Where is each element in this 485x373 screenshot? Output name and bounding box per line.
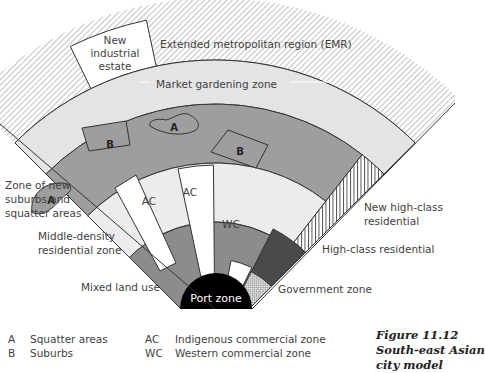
legend-item: BSuburbs [8,346,108,360]
new-high-class-label: residential [364,215,419,227]
ac-label-left: AC [142,195,156,207]
legend-left: ASquatter areas BSuburbs [8,332,108,360]
legend-right: ACIndigenous commercial zone WCWestern c… [145,332,326,360]
new-industrial-estate-label: estate [98,60,131,72]
new-suburbs-label: squatter areas [5,207,81,219]
port-zone-label: Port zone [190,292,242,305]
legend-item: ACIndigenous commercial zone [145,332,326,346]
emr-label: Extended metropolitan region (EMR) [160,38,352,50]
legend-item: ASquatter areas [8,332,108,346]
new-high-class-label: New high-class [364,201,443,213]
ac-label-central: AC [183,186,197,198]
patch-a-label-right: A [170,122,178,133]
new-suburbs-label: suburbs and [5,193,70,205]
new-suburbs-label: Zone of new [5,179,71,191]
figure-title-line: city model [376,358,485,373]
high-class-residential-label: High-class residential [322,243,434,255]
wc-label: WC [222,218,240,230]
market-gardening-label: Market gardening zone [156,78,277,90]
middle-density-label: Middle-density [38,230,115,242]
patch-b-label-right: B [236,146,244,157]
mixed-land-use-label: Mixed land use [81,281,160,293]
patch-b-label-left: B [106,139,114,150]
middle-density-label: residential zone [38,244,122,256]
legend-item: WCWestern commercial zone [145,346,326,360]
figure-title-line: South-east Asian [376,343,485,358]
new-industrial-estate-label: New [104,34,127,46]
figure-caption: Figure 11.12 South-east Asian city model [376,328,485,373]
figure-number: Figure 11.12 [376,328,485,343]
new-industrial-estate-label: industrial [90,47,139,59]
government-zone-label: Government zone [278,283,372,295]
